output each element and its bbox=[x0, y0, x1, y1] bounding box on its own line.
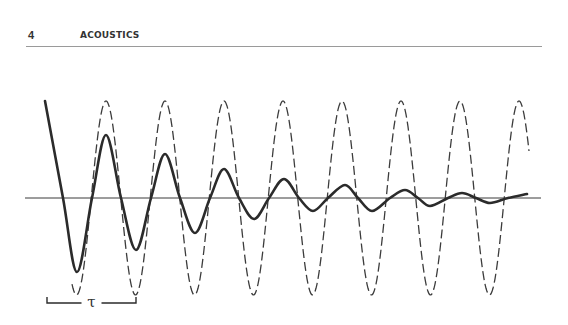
damped-wave-solid bbox=[45, 101, 527, 272]
damped-oscillation-figure: τ bbox=[0, 0, 568, 325]
tau-label: τ bbox=[87, 293, 95, 311]
bracket-right-segment bbox=[102, 297, 137, 303]
bracket-left-segment bbox=[47, 297, 82, 303]
period-bracket: τ bbox=[47, 293, 136, 311]
